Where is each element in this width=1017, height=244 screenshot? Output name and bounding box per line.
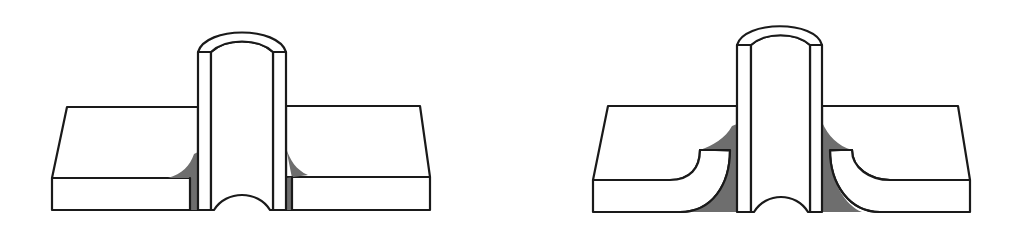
left-plate-front-left [52, 178, 198, 210]
left-pipe-wall-right [273, 52, 286, 210]
right-figure [593, 26, 970, 212]
diagram-canvas [0, 0, 1017, 244]
left-plate-front-right [286, 177, 430, 210]
right-pipe-wall-left [737, 45, 751, 212]
left-pipe-wall-left [198, 52, 211, 210]
left-pipe-interior [211, 42, 273, 211]
left-plate-top-right [286, 106, 430, 177]
left-figure [52, 33, 430, 211]
left-plate-top-left [52, 107, 198, 178]
right-pipe-interior [751, 35, 810, 212]
right-pipe-wall-right [810, 45, 822, 212]
